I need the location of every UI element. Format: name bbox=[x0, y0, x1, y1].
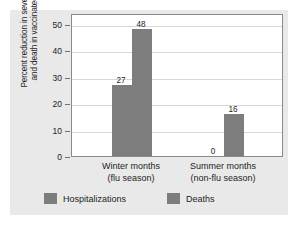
y-axis-title-line-1: Percent reduction in severe illness bbox=[20, 0, 30, 88]
y-axis-tick-mark bbox=[65, 157, 70, 158]
x-axis-category-line: (non-flu season) bbox=[163, 173, 283, 185]
y-axis-tick-mark bbox=[65, 25, 70, 26]
y-axis-tick-label: 20 bbox=[40, 99, 62, 109]
y-axis-tick-mark bbox=[65, 78, 70, 79]
y-axis-tick-label: 30 bbox=[40, 73, 62, 83]
gridline bbox=[72, 132, 282, 133]
legend-item[interactable]: Hospitalizations bbox=[44, 193, 126, 204]
chart-legend: HospitalizationsDeaths bbox=[10, 193, 288, 209]
bar bbox=[132, 29, 152, 156]
x-axis-category-line: Summer months bbox=[163, 161, 283, 173]
y-axis-tick-mark bbox=[65, 131, 70, 132]
plot-area bbox=[71, 14, 283, 157]
legend-label: Hospitalizations bbox=[63, 194, 126, 204]
gridline bbox=[72, 52, 282, 53]
y-axis-tick-label: 10 bbox=[40, 126, 62, 136]
x-axis-category-label: Summer months(non-flu season) bbox=[163, 161, 283, 184]
gridline bbox=[72, 26, 282, 27]
legend-swatch bbox=[167, 193, 180, 204]
gridline bbox=[72, 79, 282, 80]
y-axis-tick-label: 0 bbox=[40, 152, 62, 162]
y-axis-tick-label: 50 bbox=[40, 20, 62, 30]
y-axis-title-line-2: and death in vaccinated group bbox=[30, 0, 40, 88]
chart-figure: Percent reduction in severe illness and … bbox=[0, 0, 295, 230]
legend-swatch bbox=[44, 193, 57, 204]
bar-value-label: 0 bbox=[197, 147, 229, 156]
gridline bbox=[72, 105, 282, 106]
y-axis-tick-label: 40 bbox=[40, 46, 62, 56]
bar-value-label: 48 bbox=[125, 20, 157, 29]
y-axis-tick-mark bbox=[65, 51, 70, 52]
bar-value-label: 16 bbox=[217, 105, 249, 114]
y-axis-tick-mark bbox=[65, 104, 70, 105]
bar bbox=[112, 85, 132, 157]
legend-item[interactable]: Deaths bbox=[167, 193, 215, 204]
bar-value-label: 27 bbox=[105, 76, 137, 85]
legend-label: Deaths bbox=[186, 194, 215, 204]
